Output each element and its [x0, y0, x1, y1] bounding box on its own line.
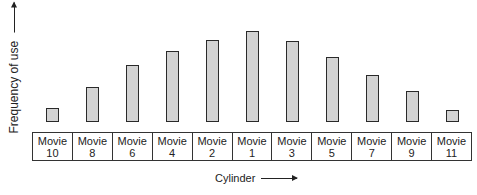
cell-line2: 6 [113, 147, 152, 159]
cell-line1: Movie [392, 135, 431, 147]
cylinder-cell: Movie3 [271, 133, 311, 160]
bar [246, 31, 259, 122]
cell-line2: 1 [233, 147, 272, 159]
up-arrow-icon [14, 2, 15, 32]
cylinder-table: Movie10Movie8Movie6Movie4Movie2Movie1Mov… [32, 132, 472, 161]
cylinder-cell: Movie7 [351, 133, 391, 160]
right-arrow-icon [261, 178, 297, 179]
cell-line1: Movie [352, 135, 391, 147]
cylinder-cell: Movie11 [431, 133, 471, 160]
x-axis-label: Cylinder [215, 172, 297, 184]
cell-line2: 5 [312, 147, 351, 159]
bar [166, 51, 179, 122]
cell-line1: Movie [312, 135, 351, 147]
cell-line1: Movie [233, 135, 272, 147]
cell-line2: 4 [153, 147, 192, 159]
bar [366, 75, 379, 122]
bar [46, 108, 59, 122]
cell-line2: 7 [352, 147, 391, 159]
bar [126, 65, 139, 122]
cell-line1: Movie [193, 135, 232, 147]
x-axis-label-text: Cylinder [215, 172, 255, 184]
cell-line1: Movie [113, 135, 152, 147]
bar [286, 41, 299, 122]
y-axis-label: Frequency of use [4, 10, 24, 125]
cell-line1: Movie [272, 135, 311, 147]
cylinder-cell: Movie10 [33, 133, 72, 160]
bar [446, 110, 459, 122]
cell-line2: 9 [392, 147, 431, 159]
y-axis-label-text: Frequency of use [7, 2, 21, 133]
cylinder-cell: Movie6 [112, 133, 152, 160]
cell-line1: Movie [73, 135, 112, 147]
bar [86, 87, 99, 122]
cell-line2: 3 [272, 147, 311, 159]
cylinder-cell: Movie4 [152, 133, 192, 160]
cylinder-cell: Movie9 [391, 133, 431, 160]
cell-line1: Movie [153, 135, 192, 147]
cell-line1: Movie [33, 135, 72, 147]
bar-area [32, 0, 472, 122]
bar [406, 91, 419, 122]
y-axis-label-words: Frequency of use [7, 40, 21, 133]
cylinder-cell: Movie2 [192, 133, 232, 160]
cell-line2: 11 [432, 147, 471, 159]
cell-line2: 10 [33, 147, 72, 159]
cylinder-cell: Movie5 [311, 133, 351, 160]
cell-line1: Movie [432, 135, 471, 147]
cell-line2: 2 [193, 147, 232, 159]
bar [206, 40, 219, 122]
cylinder-cell: Movie1 [232, 133, 272, 160]
cell-line2: 8 [73, 147, 112, 159]
cylinder-cell: Movie8 [72, 133, 112, 160]
bar [326, 57, 339, 122]
